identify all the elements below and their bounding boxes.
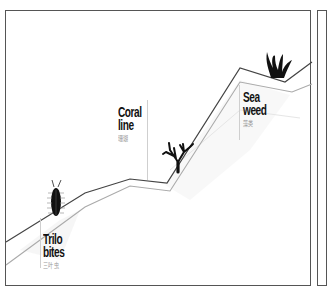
trilobite-icon (47, 180, 65, 216)
seaweed-guide-line (239, 85, 240, 140)
trilobites-guide-line (40, 218, 41, 268)
trilobites-title-line2: bites (43, 244, 64, 260)
coral-label: Coral line 珊瑚 (118, 106, 142, 143)
coral-guide-line (147, 100, 148, 180)
seaweed-icon (266, 52, 292, 78)
seaweed-subtitle: 藻类 (243, 120, 266, 128)
coral-subtitle: 珊瑚 (118, 135, 142, 143)
trilobites-subtitle: 三叶虫 (43, 262, 64, 270)
trilobites-label: Trilo bites 三叶虫 (43, 233, 64, 270)
seaweed-label: Sea weed 藻类 (243, 91, 266, 128)
coral-title-line2: line (118, 117, 134, 133)
seaweed-title-line2: weed (243, 102, 266, 118)
